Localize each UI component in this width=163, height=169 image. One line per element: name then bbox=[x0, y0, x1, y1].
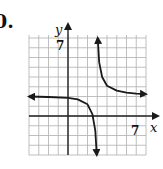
rational-function-graph: y x 7 7 bbox=[0, 0, 163, 169]
grid bbox=[29, 35, 146, 155]
y-tick-label-7: 7 bbox=[56, 39, 64, 53]
right-branch bbox=[98, 38, 146, 94]
y-axis-label: y bbox=[54, 22, 63, 37]
x-tick-label-7: 7 bbox=[131, 124, 139, 138]
x-axis-label: x bbox=[150, 120, 158, 135]
